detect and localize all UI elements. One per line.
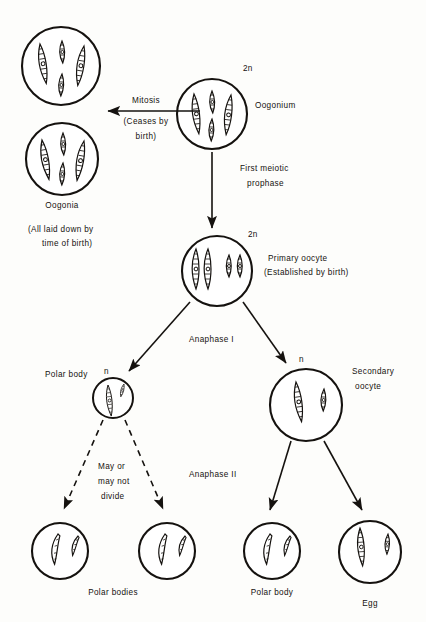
- label-egg: Egg: [362, 598, 378, 611]
- cell-polar-body-first: [93, 378, 133, 418]
- label-primary-oocyte-line1: Primary oocyte: [268, 253, 328, 266]
- label-primary-oocyte-line2: (Established by birth): [264, 267, 349, 280]
- cell-secondary-oocyte: [270, 369, 342, 441]
- label-secondary-oocyte-line1: Secondary: [352, 366, 394, 379]
- label-secondary-oocyte-line2: oocyte: [355, 381, 381, 394]
- oogenesis-diagram: Mitosis (Ceases by birth) Oogonia (All l…: [0, 0, 426, 622]
- cell-polar-body-bottom-2: [139, 523, 195, 579]
- label-anaphase-ii: Anaphase II: [189, 469, 237, 482]
- label-all-laid-down-line2: time of birth): [42, 238, 92, 251]
- label-anaphase-i: Anaphase I: [189, 334, 234, 347]
- label-oogonium: Oogonium: [255, 100, 296, 113]
- label-first-meiotic-prophase-line2: prophase: [247, 178, 284, 191]
- cell-primary-oocyte: [182, 236, 252, 306]
- label-may-or-line2: may not: [98, 476, 130, 489]
- cell-egg: [339, 521, 401, 583]
- label-first-meiotic-prophase-line1: First meiotic: [240, 163, 289, 176]
- cell-oogonium: [177, 79, 247, 149]
- label-ploidy-2n-oogonium: 2n: [243, 64, 253, 73]
- anaphase-i-left-arrow: [129, 302, 190, 371]
- anaphase-i-right-arrow: [243, 302, 286, 363]
- label-ploidy-n-secondary-oocyte: n: [299, 355, 304, 364]
- label-may-or-line1: May or: [98, 461, 125, 474]
- may-divide-right-arrow: [125, 420, 163, 509]
- label-polar-body-first: Polar body: [45, 369, 88, 382]
- cell-oogonia-upper: [22, 27, 100, 105]
- diagram-canvas: [0, 0, 426, 622]
- label-ceases-by-birth-line1: (Ceases by: [124, 116, 169, 129]
- label-ceases-by-birth-line2: birth): [136, 131, 157, 144]
- cell-polar-body-bottom-3: [244, 523, 300, 579]
- anaphase-ii-right-arrow: [324, 441, 362, 510]
- label-ploidy-n-polar-body: n: [104, 367, 109, 376]
- label-polar-body-bottom: Polar body: [251, 587, 294, 600]
- cell-polar-body-bottom-1: [32, 523, 88, 579]
- label-polar-bodies: Polar bodies: [88, 587, 138, 600]
- anaphase-ii-left-arrow: [270, 441, 291, 510]
- label-ploidy-2n-primary-oocyte: 2n: [248, 230, 258, 239]
- label-oogonia: Oogonia: [45, 200, 78, 213]
- label-all-laid-down-line1: (All laid down by: [28, 224, 94, 237]
- label-mitosis: Mitosis: [132, 95, 160, 108]
- cell-oogonia-lower: [26, 123, 98, 195]
- label-may-or-line3: divide: [101, 491, 125, 504]
